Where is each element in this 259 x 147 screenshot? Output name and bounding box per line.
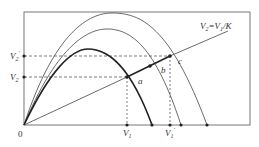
label-v1-prime: V1′ (165, 127, 176, 139)
point-c (168, 54, 172, 58)
ray-extension (170, 31, 228, 56)
axis-dot-v2 (22, 75, 25, 78)
middle-curve (24, 29, 181, 125)
axis-dot-v2p (22, 54, 25, 57)
axis-dot-outer-end (205, 123, 208, 126)
label-b: b (161, 65, 166, 75)
origin-label: 0 (18, 129, 23, 139)
inner-curve (24, 49, 152, 125)
label-c: c (178, 56, 182, 66)
point-a (125, 75, 129, 79)
axis-dot-v1 (125, 123, 128, 126)
label-v2: V2 (10, 72, 19, 83)
axis-dot-middle-end (179, 123, 182, 126)
label-a: a (138, 76, 143, 86)
axis-dot-inner-end (150, 123, 153, 126)
ray-label: V2=V1/K (200, 21, 233, 32)
diagram: V2=V1/K V2′ V2 V1 V1′ 0 a b c (0, 0, 259, 147)
label-v1: V1 (123, 128, 132, 139)
label-v2-prime: V2′ (10, 50, 21, 62)
point-b (148, 64, 152, 68)
axis-dot-v1p (168, 123, 171, 126)
